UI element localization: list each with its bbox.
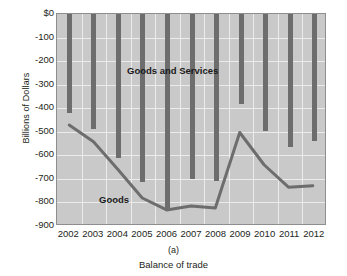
y-tick-label: -500 — [14, 126, 54, 136]
y-tick-label: -100 — [14, 32, 54, 42]
line-series-goods — [57, 14, 325, 224]
annotation-goods: Goods — [99, 194, 129, 205]
panel-letter: (a) — [0, 245, 347, 255]
x-tick-label: 2012 — [296, 228, 332, 239]
y-tick-label: -400 — [14, 102, 54, 112]
y-tick-label: $0 — [14, 8, 54, 18]
y-axis-tick-labels: $0-100-200-300-400-500-600-700-800-900 — [14, 13, 54, 225]
y-tick-label: -600 — [14, 149, 54, 159]
figure-caption: Balance of trade — [0, 259, 347, 270]
annotation-goods-and-services: Goods and Services — [127, 65, 218, 76]
y-tick-label: -200 — [14, 55, 54, 65]
x-axis-tick-labels: 2002200320042005200620072008200920102011… — [56, 228, 326, 242]
y-tick-label: -300 — [14, 79, 54, 89]
y-tick-label: -900 — [14, 220, 54, 230]
chart-figure: Billions of Dollars $0-100-200-300-400-5… — [0, 0, 347, 276]
plot-area: Goods and Services Goods — [56, 13, 326, 225]
y-tick-label: -700 — [14, 173, 54, 183]
y-tick-label: -800 — [14, 196, 54, 206]
